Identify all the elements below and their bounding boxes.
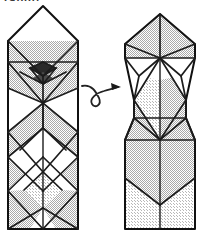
- origami-figure-svg: [0, 0, 200, 233]
- origami-diagram: rabbit: [0, 0, 200, 233]
- turn-over-arrow: [82, 83, 121, 106]
- panel-before: [8, 6, 78, 229]
- panel-after: [125, 14, 195, 229]
